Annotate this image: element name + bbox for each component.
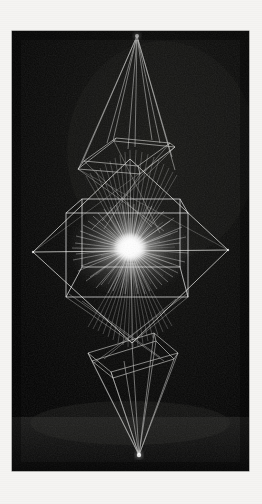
photo-canvas [0, 0, 262, 504]
light-painting-photograph [12, 31, 249, 471]
film-grain-overlay [12, 31, 249, 471]
light-drawing-svg [12, 31, 249, 471]
